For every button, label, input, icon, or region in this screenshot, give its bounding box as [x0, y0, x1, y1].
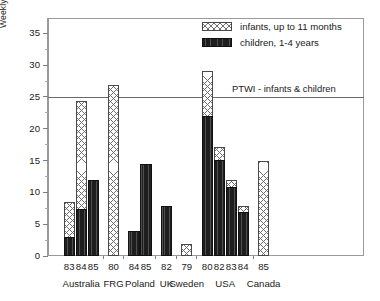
- bar-children: [64, 237, 75, 256]
- bar-infants: [181, 244, 192, 256]
- x-year-label: 80: [103, 261, 125, 272]
- x-year-label: 85: [82, 261, 104, 272]
- x-group-tick: [196, 256, 197, 259]
- legend-swatch-children-icon: [202, 38, 232, 47]
- x-year-label: 79: [176, 261, 198, 272]
- bar-children: [76, 209, 87, 256]
- legend-label-infants: infants, up to 11 months: [240, 20, 342, 33]
- bar-infants: [108, 85, 119, 256]
- x-year-label: 82: [155, 261, 177, 272]
- bar-children: [88, 180, 99, 256]
- x-group-tick: [155, 256, 156, 259]
- legend-swatch-infants-icon: [202, 22, 232, 31]
- bar-children: [238, 212, 249, 256]
- bar-infants: [258, 161, 269, 256]
- x-year-label: 85: [253, 261, 275, 272]
- bars-layer: [0, 0, 380, 301]
- x-country-label-canada: Canada: [224, 278, 304, 289]
- x-group-tick: [176, 256, 177, 259]
- x-year-label: 85: [135, 261, 157, 272]
- bar-children: [140, 164, 151, 256]
- legend-label-children: children, 1-4 years: [240, 36, 319, 49]
- bar-chart: Weekly dietary intake (µg/kg body weight…: [0, 0, 380, 301]
- x-group-tick: [103, 256, 104, 259]
- bar-children: [202, 116, 213, 256]
- x-year-label: 84: [232, 261, 254, 272]
- x-group-tick: [123, 256, 124, 259]
- bar-children: [214, 160, 225, 256]
- bar-children: [128, 231, 139, 256]
- bar-children: [226, 187, 237, 256]
- bar-children: [161, 206, 172, 256]
- x-group-tick: [253, 256, 254, 259]
